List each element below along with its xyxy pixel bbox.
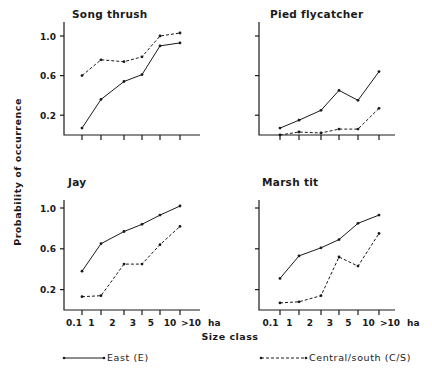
y-tick-label: 1.0 bbox=[40, 204, 56, 214]
y-tick-label: 1.0 bbox=[40, 32, 56, 42]
data-point bbox=[298, 119, 301, 122]
data-point bbox=[159, 45, 162, 48]
data-point bbox=[123, 80, 126, 83]
x-tick-label: 2 bbox=[109, 318, 115, 328]
y-tick-label: 0.6 bbox=[40, 244, 56, 254]
data-point bbox=[357, 222, 360, 225]
data-point bbox=[338, 256, 341, 259]
x-tick-label: 10 bbox=[362, 318, 375, 328]
x-tick-label: 1 bbox=[286, 318, 292, 328]
data-point bbox=[298, 300, 301, 303]
series-east-line bbox=[280, 72, 379, 129]
data-point bbox=[81, 295, 84, 298]
series-east-line bbox=[82, 206, 180, 271]
data-point bbox=[378, 232, 381, 235]
data-point bbox=[320, 132, 323, 135]
data-point bbox=[100, 294, 103, 297]
data-point bbox=[141, 263, 144, 266]
series-central-south-line bbox=[82, 226, 180, 296]
panel-title: Jay bbox=[67, 176, 86, 188]
x-tick-label: 0.1 bbox=[66, 318, 82, 328]
data-point bbox=[357, 99, 360, 102]
y-tick-label: 0.2 bbox=[40, 285, 56, 295]
panel-marsh-tit: Marsh tit0.1123510>10ha bbox=[255, 176, 419, 328]
x-tick-label: 5 bbox=[345, 318, 351, 328]
data-point bbox=[159, 35, 162, 38]
data-point bbox=[320, 246, 323, 249]
x-axis-label: Size class bbox=[202, 331, 259, 342]
axes bbox=[64, 200, 200, 310]
x-tick-label: >10 bbox=[380, 318, 400, 328]
data-point bbox=[378, 214, 381, 217]
data-point bbox=[123, 263, 126, 266]
x-tick-label: 3 bbox=[327, 318, 333, 328]
data-point bbox=[123, 60, 126, 63]
data-point bbox=[279, 277, 282, 280]
data-point bbox=[123, 230, 126, 233]
data-point bbox=[279, 127, 282, 130]
panel-title: Marsh tit bbox=[262, 176, 318, 188]
data-point bbox=[81, 270, 84, 273]
data-point bbox=[338, 89, 341, 92]
data-point bbox=[320, 294, 323, 297]
data-point bbox=[100, 242, 103, 245]
legend-east-label: East (E) bbox=[107, 352, 149, 363]
legend-cs-label: Central/south (C/S) bbox=[309, 352, 411, 363]
data-point bbox=[298, 255, 301, 258]
series-central-south-line bbox=[82, 33, 180, 76]
data-point bbox=[179, 42, 182, 45]
data-point bbox=[81, 74, 84, 77]
data-point bbox=[320, 109, 323, 112]
data-point bbox=[279, 134, 282, 137]
data-point bbox=[298, 131, 301, 134]
y-axis-label: Probability of occurrence bbox=[12, 98, 23, 246]
data-point bbox=[100, 98, 103, 101]
x-tick-label: 10 bbox=[164, 318, 177, 328]
data-point bbox=[357, 128, 360, 131]
data-point bbox=[338, 128, 341, 131]
y-tick-label: 0.6 bbox=[40, 71, 56, 81]
x-unit-label: ha bbox=[208, 318, 220, 328]
data-point bbox=[179, 32, 182, 35]
series-east-line bbox=[82, 43, 180, 128]
data-point bbox=[338, 238, 341, 241]
panel-jay: Jay0.20.61.00.1123510>10ha bbox=[40, 176, 220, 328]
data-point bbox=[357, 265, 360, 268]
series-east-line bbox=[280, 215, 379, 278]
data-point bbox=[159, 214, 162, 217]
data-point bbox=[81, 127, 84, 130]
data-point bbox=[378, 107, 381, 110]
x-tick-label: 1 bbox=[88, 318, 94, 328]
panel-pied-flycatcher: Pied flycatcher bbox=[255, 8, 395, 140]
data-point bbox=[179, 205, 182, 208]
y-tick-label: 0.2 bbox=[40, 111, 56, 121]
x-tick-label: 2 bbox=[307, 318, 313, 328]
x-unit-label: ha bbox=[407, 318, 419, 328]
data-point bbox=[100, 58, 103, 61]
x-tick-label: >10 bbox=[181, 318, 201, 328]
data-point bbox=[179, 225, 182, 228]
x-tick-label: 0.1 bbox=[263, 318, 279, 328]
legend: East (E)Central/south (C/S) bbox=[63, 352, 411, 363]
data-point bbox=[141, 223, 144, 226]
data-point bbox=[141, 73, 144, 76]
panel-title: Song thrush bbox=[72, 8, 148, 20]
panel-title: Pied flycatcher bbox=[270, 8, 364, 20]
data-point bbox=[378, 70, 381, 73]
data-point bbox=[159, 243, 162, 246]
x-tick-label: 3 bbox=[130, 318, 136, 328]
data-point bbox=[279, 302, 282, 305]
panel-song-thrush: Song thrush0.20.61.0 bbox=[40, 8, 200, 140]
axes bbox=[259, 22, 395, 135]
figure: Song thrush0.20.61.0Pied flycatcherJay0.… bbox=[0, 0, 432, 370]
data-point bbox=[141, 55, 144, 58]
x-tick-label: 5 bbox=[148, 318, 154, 328]
